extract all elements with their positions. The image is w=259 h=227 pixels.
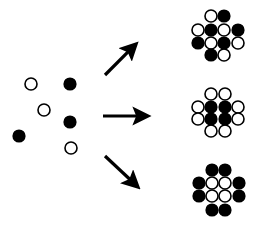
scattered-white-particle [38, 104, 50, 116]
cluster-alternating-white-particle [232, 37, 244, 49]
cluster-black-core-white-particle [205, 125, 217, 137]
cluster-alternating-black-particle [191, 36, 204, 49]
cluster-white-core-black-particle [232, 189, 245, 202]
cluster-black-core-white-particle [219, 125, 231, 137]
cluster-alternating-black-particle [204, 23, 217, 36]
cluster-white-core-black-particle [192, 189, 205, 202]
cluster-white-core-black-particle [192, 176, 205, 189]
cluster-black-core-white-particle [205, 88, 217, 100]
cluster-black-core-white-particle [219, 88, 231, 100]
cluster-alternating-black-particle [217, 36, 230, 49]
arrow-up-right-icon [105, 48, 132, 75]
cluster-black-core-black-particle [218, 100, 231, 113]
cluster-white-core-black-particle [205, 203, 218, 216]
cluster-white-core-white-particle [219, 177, 231, 189]
cluster-white-core-white-particle [206, 190, 218, 202]
cluster-white-core-black-particle [218, 163, 231, 176]
cluster-alternating-white-particle [218, 24, 230, 36]
scattered-white-particle [25, 78, 37, 90]
cluster-black-core-white-particle [232, 113, 244, 125]
diagram-canvas [0, 0, 259, 227]
scattered-black-particle [63, 77, 76, 90]
cluster-alternating-white-particle [192, 24, 204, 36]
cluster-alternating-black-particle [231, 23, 244, 36]
transition-arrows [103, 48, 143, 184]
cluster-alternating-black-particle [217, 9, 230, 22]
cluster-black-core-black-particle [204, 112, 217, 125]
cluster-white-core-white-particle [219, 190, 231, 202]
cluster-black-core-white-particle [192, 101, 204, 113]
scattered-black-particle [63, 115, 76, 128]
cluster-white-core-black-particle [205, 163, 218, 176]
cluster-alternating [191, 9, 244, 61]
cluster-alternating-black-particle [204, 48, 217, 61]
cluster-white-core-white-particle [206, 177, 218, 189]
cluster-alternating-white-particle [205, 10, 217, 22]
cluster-black-core-white-particle [192, 113, 204, 125]
cluster-black-core [192, 88, 244, 137]
cluster-alternating-white-particle [218, 49, 230, 61]
cluster-white-core [192, 163, 245, 216]
diagram-figure [0, 0, 259, 227]
cluster-white-core-black-particle [232, 176, 245, 189]
cluster-white-core-black-particle [218, 203, 231, 216]
arrow-down-right-icon [105, 156, 134, 183]
cluster-black-core-white-particle [232, 101, 244, 113]
scattered-particles [12, 77, 77, 154]
assembled-clusters [191, 9, 245, 216]
cluster-alternating-white-particle [205, 37, 217, 49]
scattered-white-particle [65, 142, 77, 154]
cluster-black-core-black-particle [204, 100, 217, 113]
cluster-black-core-black-particle [218, 112, 231, 125]
scattered-black-particle [12, 129, 25, 142]
